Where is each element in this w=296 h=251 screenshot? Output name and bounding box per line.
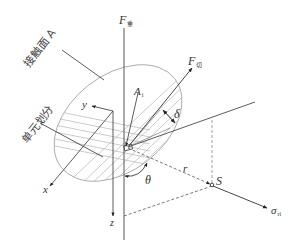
element-area-symbol: A	[134, 85, 141, 97]
stress-subscript: ri	[277, 211, 281, 217]
label-element-area: Ai	[134, 86, 143, 98]
label-theta: θ	[145, 174, 151, 186]
element-division-hatch	[40, 68, 215, 190]
contact-surface-diagram: F重 F切 接触面 A 单元划分 Ai δ θ r S σri y x z	[0, 0, 296, 251]
label-force-shear: F切	[188, 55, 202, 68]
stress-symbol: σ	[271, 204, 276, 216]
label-axis-z: z	[110, 218, 114, 228]
theta-angle-arc	[125, 163, 147, 176]
force-normal-subscript: 重	[127, 21, 133, 27]
contact-surface-leader	[62, 50, 104, 80]
force-normal-symbol: F	[119, 13, 126, 27]
label-axis-x: x	[43, 184, 48, 195]
label-point-s: S	[216, 175, 222, 187]
label-delta: δ	[174, 108, 180, 120]
label-force-normal: F重	[119, 14, 133, 27]
local-axis-y	[92, 106, 113, 111]
label-stress: σri	[271, 205, 281, 217]
base-dashed-line	[124, 186, 212, 216]
contact-surface-ellipse	[32, 41, 205, 205]
element-ai-normal	[126, 93, 138, 146]
element-area-subscript: i	[142, 92, 144, 98]
label-radius: r	[183, 163, 187, 174]
stress-arrow	[213, 186, 267, 208]
shear-force-arrow	[128, 68, 192, 147]
force-shear-symbol: F	[188, 54, 195, 68]
label-axis-y: y	[82, 99, 87, 110]
force-shear-subscript: 切	[196, 62, 202, 68]
